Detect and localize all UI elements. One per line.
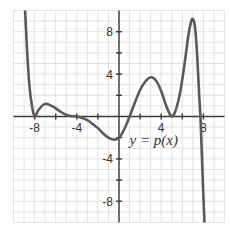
y-tick-label: -4	[102, 152, 113, 166]
polynomial-graph: -8-44884-4-8 y = p(x)	[0, 0, 230, 231]
annotations: y = p(x)	[128, 132, 178, 149]
x-tick-label: -8	[29, 121, 40, 135]
y-tick-label: 8	[106, 25, 113, 39]
x-tick-label: -4	[71, 121, 82, 135]
y-tick-label: -8	[102, 195, 113, 209]
y-tick-label: 4	[106, 68, 113, 82]
curve-label: y = p(x)	[128, 132, 178, 149]
